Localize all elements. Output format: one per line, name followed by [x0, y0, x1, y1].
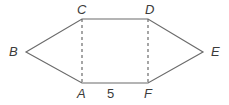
vertex-label-d: D — [145, 3, 154, 16]
vertex-label-c: C — [77, 3, 86, 16]
geometry-figure: B C D E F A 5 — [0, 0, 229, 105]
hexagon-svg — [0, 0, 229, 105]
vertex-label-b: B — [9, 45, 18, 58]
side-length-label-af: 5 — [107, 87, 114, 100]
vertex-label-a: A — [77, 87, 86, 100]
hexagon-outline — [26, 19, 203, 83]
vertex-label-e: E — [211, 45, 220, 58]
vertex-label-f: F — [144, 87, 152, 100]
